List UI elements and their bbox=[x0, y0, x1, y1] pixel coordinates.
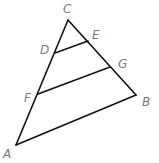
label-B: B bbox=[142, 95, 150, 109]
label-E: E bbox=[92, 28, 100, 42]
segment-FG bbox=[38, 67, 110, 94]
segment-DE bbox=[55, 41, 88, 53]
label-F: F bbox=[24, 91, 32, 105]
label-G: G bbox=[118, 57, 127, 71]
label-D: D bbox=[40, 43, 49, 57]
triangle-diagram: C E D G F B A bbox=[0, 0, 159, 163]
label-A: A bbox=[2, 147, 11, 161]
label-C: C bbox=[63, 2, 72, 16]
